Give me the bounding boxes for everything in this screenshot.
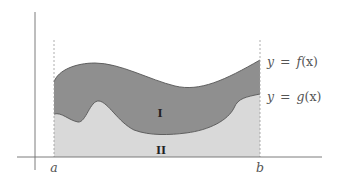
label-g: y = g(x): [266, 89, 321, 104]
bound-b-label: b: [256, 160, 264, 175]
region-i-label: I: [157, 105, 162, 120]
region-ii-label: II: [156, 142, 166, 157]
bound-a-label: a: [50, 160, 57, 175]
label-f: y = f(x): [266, 54, 318, 69]
area-between-curves-diagram: y = f(x) y = g(x) I II a b: [0, 0, 344, 179]
